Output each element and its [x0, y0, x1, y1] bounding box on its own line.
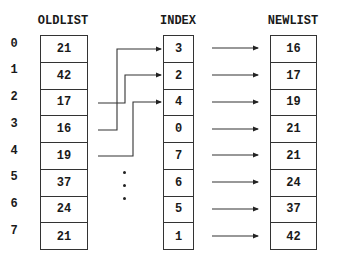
newlist-header: NEWLIST: [264, 14, 322, 28]
newlist-cell: 21: [271, 116, 316, 143]
oldlist-cell: 37: [41, 170, 87, 197]
index-cell: 0: [164, 116, 193, 143]
row-label: 6: [8, 197, 20, 211]
row-label: 7: [8, 224, 20, 238]
oldlist-cell: 19: [41, 143, 87, 170]
oldlist-cell: 24: [41, 197, 87, 224]
oldlist-cell: 16: [41, 116, 87, 143]
row-label: 2: [8, 90, 20, 104]
ellipsis-dot: [123, 197, 126, 200]
newlist-cell: 17: [271, 63, 316, 90]
oldlist-cell: 21: [41, 223, 87, 250]
index-header: INDEX: [155, 14, 201, 28]
oldlist-cell: 42: [41, 63, 87, 90]
newlist-array: 16 17 19 21 21 24 37 42: [270, 35, 317, 250]
index-cell: 7: [164, 143, 193, 170]
newlist-cell: 42: [271, 223, 316, 250]
row-label: 5: [8, 170, 20, 184]
row-label: 4: [8, 144, 20, 158]
newlist-cell: 16: [271, 36, 316, 63]
index-cell: 4: [164, 90, 193, 117]
index-cell: 1: [164, 223, 193, 250]
ellipsis-dot: [123, 184, 126, 187]
index-array: 3 2 4 0 7 6 5 1: [163, 35, 194, 250]
connector-old4-to-index2: [98, 102, 161, 156]
row-label: 3: [8, 117, 20, 131]
oldlist-array: 21 42 17 16 19 37 24 21: [40, 35, 88, 250]
oldlist-cell: 21: [41, 36, 87, 63]
oldlist-header: OLDLIST: [34, 14, 92, 28]
connector-old3-to-index0: [98, 49, 161, 130]
connector-old2-to-index1: [98, 75, 161, 103]
row-label: 0: [8, 37, 20, 51]
oldlist-cell: 17: [41, 90, 87, 117]
newlist-cell: 21: [271, 143, 316, 170]
index-cell: 2: [164, 63, 193, 90]
newlist-cell: 24: [271, 170, 316, 197]
index-cell: 5: [164, 197, 193, 224]
index-cell: 3: [164, 36, 193, 63]
index-cell: 6: [164, 170, 193, 197]
newlist-cell: 19: [271, 90, 316, 117]
row-label: 1: [8, 63, 20, 77]
newlist-cell: 37: [271, 197, 316, 224]
ellipsis-dot: [123, 171, 126, 174]
